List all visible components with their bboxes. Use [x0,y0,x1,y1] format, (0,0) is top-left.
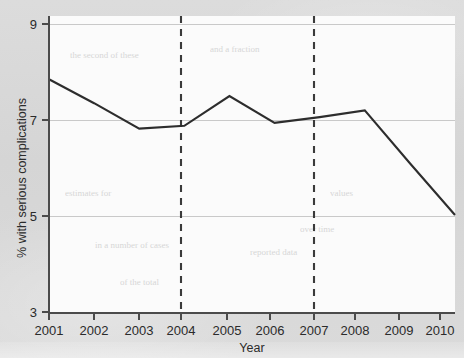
y-axis-title: % with serious complications [15,98,29,258]
x-tick-label-2001: 2001 [35,323,64,338]
chart-svg: the second of these and a fraction in a … [0,0,464,358]
x-axis-tick-labels: 2001 2002 2003 2004 2005 2006 2007 2008 … [35,323,455,338]
x-tick-label-2005: 2005 [213,323,242,338]
x-tick-label-2008: 2008 [341,323,370,338]
svg-text:of the total: of the total [120,277,159,287]
x-axis-ticks [49,313,440,320]
x-tick-label-2006: 2006 [256,323,285,338]
y-tick-label-5: 5 [30,209,37,224]
x-axis-title: Year [239,341,264,355]
svg-text:and a fraction: and a fraction [210,44,260,54]
y-tick-label-7: 7 [30,113,37,128]
x-tick-label-2003: 2003 [125,323,154,338]
x-tick-label-2009: 2009 [385,323,414,338]
y-tick-label-9: 9 [30,17,37,32]
svg-text:over time: over time [300,224,334,234]
line-chart-figure: the second of these and a fraction in a … [0,0,464,358]
svg-text:in a number of cases: in a number of cases [95,240,169,250]
y-axis-tick-labels: 9 7 5 3 [30,17,37,320]
y-axis-ticks [42,24,49,312]
svg-text:the second of these: the second of these [70,50,139,60]
x-tick-label-2010: 2010 [426,323,455,338]
svg-text:reported data: reported data [250,247,297,257]
y-tick-label-3: 3 [30,305,37,320]
svg-text:values: values [330,188,353,198]
x-tick-label-2007: 2007 [300,323,329,338]
svg-text:estimates for: estimates for [65,188,111,198]
x-tick-label-2004: 2004 [167,323,196,338]
plot-area-background [49,16,455,313]
x-tick-label-2002: 2002 [80,323,109,338]
